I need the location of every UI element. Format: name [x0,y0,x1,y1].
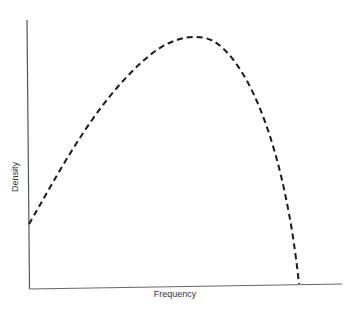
y-axis-label: Density [10,152,20,202]
density-curve [29,37,299,284]
y-axis [27,20,30,289]
density-frequency-chart [0,0,356,309]
x-axis-label: Frequency [140,289,210,299]
